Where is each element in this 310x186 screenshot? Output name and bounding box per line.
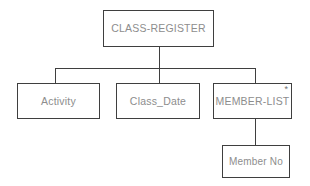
- node-label-class-register: CLASS-REGISTER: [111, 23, 205, 34]
- structure-chart-diagram: CLASS-REGISTER Activity Class_Date MEMBE…: [0, 0, 310, 186]
- node-member-no[interactable]: Member No: [222, 145, 290, 178]
- node-class-date[interactable]: Class_Date: [116, 83, 200, 119]
- node-label-activity: Activity: [41, 96, 76, 107]
- node-member-list[interactable]: MEMBER-LIST *: [213, 83, 292, 119]
- connector-root-stem: [159, 47, 160, 68]
- node-label-member-list: MEMBER-LIST: [216, 96, 290, 107]
- iteration-asterisk-icon: *: [284, 85, 288, 94]
- connector-horizontal-bus: [55, 68, 255, 69]
- connector-drop-member-list: [255, 68, 256, 83]
- node-class-register[interactable]: CLASS-REGISTER: [103, 10, 214, 47]
- node-label-class-date: Class_Date: [130, 96, 186, 107]
- connector-member-list-to-member-no: [255, 119, 256, 145]
- connector-drop-activity: [55, 68, 56, 83]
- connector-drop-class-date: [159, 68, 160, 83]
- node-activity[interactable]: Activity: [17, 83, 100, 119]
- node-label-member-no: Member No: [229, 157, 283, 167]
